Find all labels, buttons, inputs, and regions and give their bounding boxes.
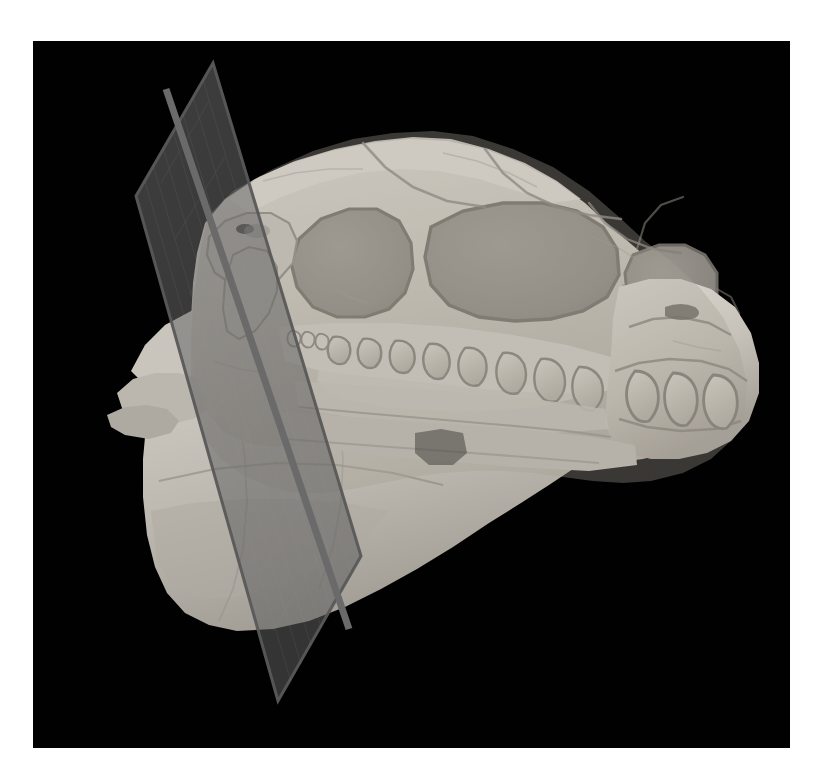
three-d-scene[interactable] xyxy=(33,41,790,748)
jaw-notch xyxy=(415,429,467,465)
render-viewport[interactable] xyxy=(33,41,790,748)
app-window: Theropod dinosaur skull, left lateral vi… xyxy=(0,0,826,766)
